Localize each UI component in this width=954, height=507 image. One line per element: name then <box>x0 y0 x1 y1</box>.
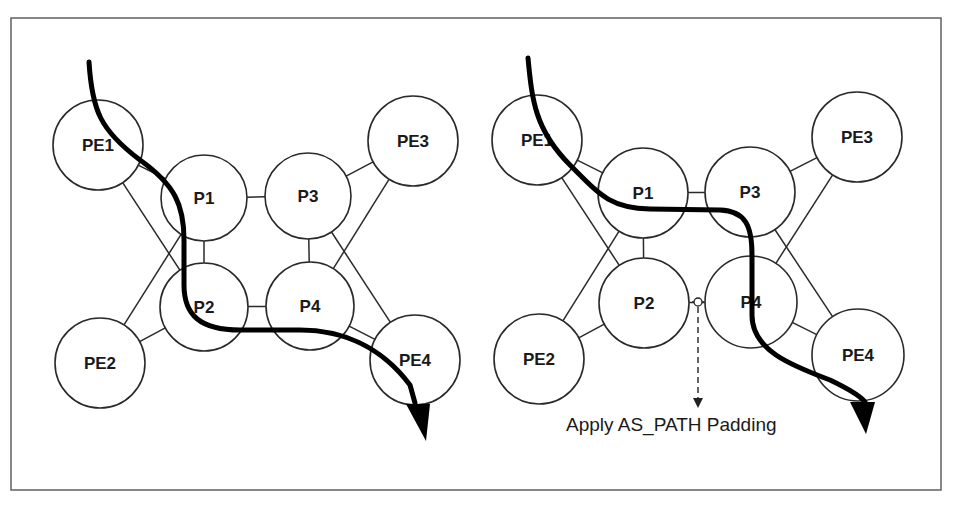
router-label: P1 <box>633 184 654 203</box>
traffic-path-curve <box>89 62 415 403</box>
node-layer: PE1PE2P1P2P3P4PE3PE4 <box>53 96 460 408</box>
traffic-path-arrowhead-icon <box>850 402 875 434</box>
link-pe2-p2 <box>579 324 605 338</box>
router-label: P3 <box>740 183 761 202</box>
network-diagram-left: PE1PE2P1P2P3P4PE3PE4 <box>53 62 460 441</box>
router-node-pe2: PE2 <box>55 318 145 408</box>
router-node-p2: P2 <box>599 258 689 348</box>
annotation-label: Apply AS_PATH Padding <box>566 414 777 436</box>
link-layer <box>562 158 833 338</box>
router-label: P2 <box>194 298 215 317</box>
router-label: PE2 <box>84 354 116 373</box>
traffic-path-curve <box>528 58 865 402</box>
router-label: PE4 <box>842 346 875 365</box>
link-pe3-p3 <box>346 162 373 176</box>
figure-frame <box>11 18 941 490</box>
link-pe3-p3 <box>790 158 817 172</box>
link-pe3-p4 <box>776 175 833 263</box>
router-node-pe3: PE3 <box>368 96 458 186</box>
router-node-pe2: PE2 <box>494 314 584 404</box>
link-pe1-p2 <box>562 178 620 266</box>
router-node-pe3: PE3 <box>812 92 902 182</box>
as-path-padding-annotation: Apply AS_PATH Padding <box>566 298 777 436</box>
router-node-p1: P1 <box>598 148 688 238</box>
link-pe4-p3 <box>775 230 833 317</box>
router-label: P1 <box>194 189 215 208</box>
router-label: PE3 <box>841 128 873 147</box>
link-pe2-p1 <box>563 231 619 321</box>
link-pe1-p1 <box>577 160 603 173</box>
figure-canvas: PE1PE2P1P2P3P4PE3PE4 PE1PE2P1P2P3P4PE3PE… <box>0 0 954 507</box>
router-label: PE1 <box>82 136 114 155</box>
router-label: P3 <box>298 187 319 206</box>
link-pe2-p1 <box>124 234 181 325</box>
router-label: P2 <box>634 294 655 313</box>
traffic-path-arrowhead-icon <box>406 404 430 441</box>
router-label: PE2 <box>523 350 555 369</box>
router-node-p3: P3 <box>705 147 795 237</box>
link-pe4-p4 <box>792 322 817 334</box>
router-node-p3: P3 <box>265 153 351 239</box>
router-node-p2: P2 <box>160 263 248 351</box>
annotation-arrow-icon <box>693 398 703 408</box>
padding-point-marker-icon <box>694 298 702 306</box>
router-label: PE3 <box>397 132 429 151</box>
router-label: PE4 <box>399 351 432 370</box>
link-pe2-p2 <box>140 328 166 342</box>
network-diagram-right: PE1PE2P1P2P3P4PE3PE4 Apply AS_PATH Paddi… <box>492 58 904 436</box>
link-pe4-p3 <box>331 232 390 322</box>
router-label: P4 <box>300 297 321 316</box>
router-node-pe4: PE4 <box>812 309 904 401</box>
